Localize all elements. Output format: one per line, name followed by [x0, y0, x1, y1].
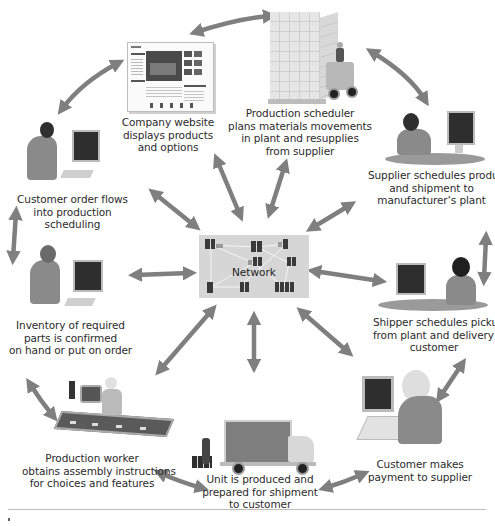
label-customer-payment: Customer makes payment to supplier [365, 458, 475, 483]
customer-payment-illustration [358, 366, 458, 452]
arrow-net-inventory [135, 273, 190, 275]
arrow-net-payment [302, 312, 348, 352]
website-screenshot-illustration [127, 42, 214, 112]
delivery-truck-illustration [192, 418, 322, 480]
inventory-clerk-illustration [26, 242, 106, 310]
arrow-website-customer [62, 63, 118, 109]
customer-at-computer-illustration [22, 120, 102, 186]
label-production-scheduler: Production scheduler plans materials mov… [225, 107, 375, 157]
arrow-net-worker [160, 310, 212, 370]
forklift-pallet-illustration [268, 4, 358, 109]
assembly-line-worker-illustration [50, 375, 170, 437]
label-company-website: Company website displays products and op… [118, 116, 218, 154]
arrow-website-scheduler [196, 16, 270, 32]
network-label: Network [232, 266, 276, 278]
label-supplier: Supplier schedules production and shipme… [368, 169, 495, 207]
erp-flow-diagram: Network Company website displays product… [0, 0, 495, 526]
shipper-at-computer-illustration [378, 255, 488, 313]
label-production-worker: Production worker obtains assembly instr… [22, 452, 162, 490]
label-customer-order: Customer order flows into production sch… [15, 193, 130, 231]
corner-mark [8, 518, 10, 521]
supplier-at-computer-illustration [385, 105, 485, 167]
label-unit-produced: Unit is produced and prepared for shipme… [195, 473, 325, 511]
label-inventory: Inventory of required parts is confirmed… [8, 319, 133, 357]
arrow-net-customer [154, 193, 195, 226]
arrow-scheduler-supplier [372, 52, 425, 100]
bottom-divider [8, 509, 486, 510]
network-hub: Network [199, 235, 309, 298]
arrow-net-shipper [314, 271, 380, 281]
arrow-net-website [217, 160, 240, 215]
arrow-net-scheduler [270, 165, 285, 212]
arrow-unit-payment [325, 474, 363, 488]
label-shipper: Shipper schedules pickup from plant and … [373, 316, 495, 354]
arrow-net-supplier [312, 205, 350, 228]
